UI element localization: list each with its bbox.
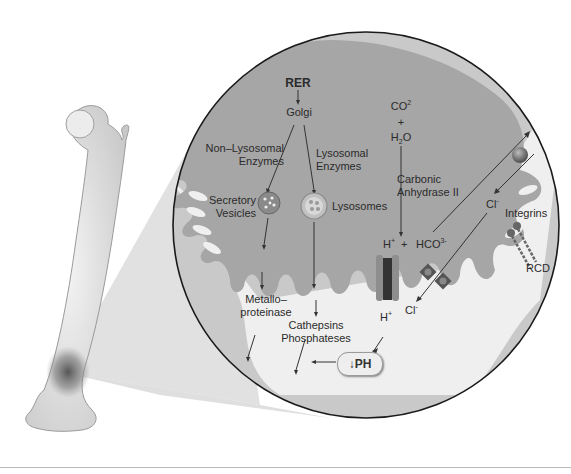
proton-pump-icon	[376, 255, 399, 301]
label-plus-reaction: +	[401, 238, 407, 251]
label-plus-co2: +	[398, 116, 404, 129]
label-lysosomal-line2: Enzymes	[316, 160, 368, 173]
label-non-lysosomal-line2: Enzymes	[200, 155, 284, 168]
label-hco3: HCO3-	[416, 238, 447, 251]
secretory-vesicle-icon	[258, 192, 280, 214]
label-secretory-line1: Secretory	[200, 194, 256, 207]
bottom-divider	[0, 467, 571, 468]
label-integrins: Integrins	[505, 207, 547, 220]
label-cl-upper: Cl-	[486, 198, 499, 211]
label-h-plus: H+	[383, 238, 395, 251]
label-non-lysosomal-enzymes: Non–Lysosomal Enzymes	[200, 142, 284, 168]
label-h-lower: H+	[380, 311, 392, 324]
label-non-lysosomal-line1: Non–Lysosomal	[200, 142, 284, 155]
label-metallo-line1: Metallo–	[240, 293, 291, 306]
label-h2o: H2O	[391, 131, 411, 144]
diagram-canvas	[0, 0, 571, 474]
label-cathepsins: Cathepsins	[281, 319, 351, 332]
label-lysosomes: Lysosomes	[332, 200, 387, 213]
lysosome-icon	[301, 193, 327, 219]
label-secretory-vesicles: Secretory Vesicles	[200, 194, 256, 220]
label-carbonic-anhydrase: Carbonic Anhydrase II	[397, 173, 459, 199]
label-rcd: RCD	[526, 262, 550, 275]
label-lysosomal-line1: Lysosomal	[316, 147, 368, 160]
label-carbonic-line2: Anhydrase II	[397, 186, 459, 199]
transporter-ball-icon	[512, 147, 528, 163]
label-secretory-line2: Vesicles	[200, 207, 256, 220]
label-rer: RER	[285, 77, 310, 90]
label-metallo-line2: proteinase	[240, 306, 291, 319]
label-metalloproteinase: Metallo– proteinase	[240, 293, 291, 319]
label-golgi: Golgi	[286, 106, 312, 119]
label-cl-lower: Cl-	[405, 304, 418, 317]
label-phosphateses: Phosphateses	[281, 332, 351, 345]
ph-decrease-badge: ↓PH	[337, 352, 383, 376]
label-cathepsins-phosphateses: Cathepsins Phosphateses	[281, 319, 351, 345]
label-lysosomal-enzymes: Lysosomal Enzymes	[316, 147, 368, 173]
label-co2: CO2	[391, 100, 411, 113]
label-carbonic-line1: Carbonic	[397, 173, 459, 186]
osteoclast-diagram: RER Golgi Non–Lysosomal Enzymes Lysosoma…	[0, 0, 571, 474]
